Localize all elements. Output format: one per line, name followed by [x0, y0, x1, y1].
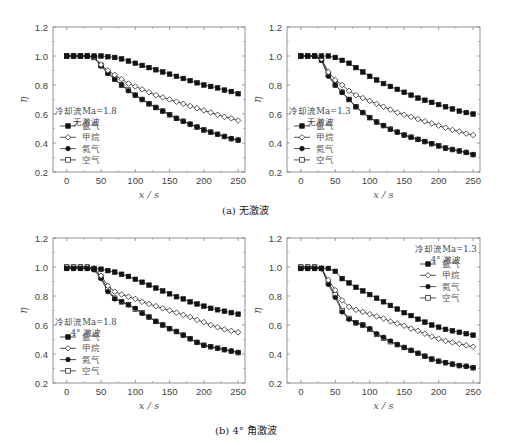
circle-filled-marker [195, 125, 200, 130]
x-tick-label: 100 [362, 175, 378, 186]
square-filled-marker [464, 331, 469, 336]
circle-filled-marker [119, 83, 124, 88]
diamond-open-marker [422, 331, 428, 337]
caption-b: (b) 4° 角激波 [215, 422, 277, 437]
square-filled-marker [92, 266, 97, 271]
circle-filled-marker [402, 133, 407, 138]
circle-filled-marker [133, 306, 138, 311]
circle-filled-marker [112, 297, 117, 302]
square-filled-marker [71, 266, 76, 271]
x-tick-label: 50 [96, 386, 107, 397]
legend-title: 冷却流Ma=1.3 [289, 106, 350, 116]
square-filled-marker [443, 327, 448, 332]
diamond-open-marker [222, 114, 228, 120]
circle-filled-marker [208, 344, 213, 349]
circle-filled-marker [106, 289, 111, 294]
square-filled-marker [409, 93, 414, 98]
y-tick-label: 1.2 [35, 22, 48, 33]
chart-b-left: 0.20.40.60.81.01.2050100150200250x / sη冷… [17, 233, 246, 412]
y-tick-label: 0.4 [269, 138, 282, 149]
diamond-open-marker [194, 317, 200, 323]
diamond-open-marker [208, 322, 214, 328]
circle-filled-marker [333, 83, 338, 88]
diamond-open-marker [360, 309, 366, 315]
legend-label: 空气 [82, 366, 100, 376]
circle-filled-marker [126, 302, 131, 307]
diamond-open-marker [401, 323, 407, 329]
square-filled-marker [99, 54, 104, 59]
square-filled-marker [147, 65, 152, 70]
square-filled-marker [450, 107, 455, 112]
legend-title: 冷却流Ma=1.8 [55, 317, 116, 327]
diamond-open-marker [126, 294, 132, 300]
diamond-open-marker [353, 92, 359, 98]
circle-filled-marker [416, 351, 421, 356]
legend: 冷却流Ma=1.8无激波氩气甲烷氦气空气 [55, 106, 116, 165]
circle-filled-marker [409, 135, 414, 140]
circle-filled-marker [208, 130, 213, 135]
x-tick-label: 50 [330, 175, 341, 186]
x-tick-label: 250 [465, 175, 481, 186]
diamond-open-marker [119, 76, 125, 82]
circle-filled-marker [426, 284, 431, 289]
square-filled-marker [416, 317, 421, 322]
legend-label: 空气 [82, 155, 100, 165]
square-filled-marker [195, 81, 200, 86]
square-filled-marker [457, 330, 462, 335]
x-axis-label: x / s [139, 400, 160, 411]
circle-filled-marker [402, 345, 407, 350]
y-tick-label: 0.2 [35, 167, 48, 178]
square-filled-marker [215, 307, 220, 312]
square-filled-marker [133, 277, 138, 282]
circle-filled-marker [443, 146, 448, 151]
legend: 冷却流Ma=1.34° 激波氩气甲烷氦气空气 [415, 244, 476, 303]
legend-label: 氩气 [82, 332, 100, 342]
legend-title: 冷却流Ma=1.8 [55, 106, 116, 116]
figure: 0.20.40.60.81.01.2050100150200250x / sη冷… [0, 0, 507, 445]
x-tick-label: 0 [64, 386, 69, 397]
series-markers [298, 265, 475, 370]
diamond-open-marker [65, 346, 71, 352]
square-filled-marker [305, 54, 310, 59]
diamond-open-marker [457, 129, 463, 135]
square-filled-marker [402, 90, 407, 95]
square-filled-marker [426, 262, 431, 267]
circle-filled-marker [381, 335, 386, 340]
diamond-open-marker [228, 116, 234, 122]
circle-filled-marker [119, 300, 124, 305]
square-filled-marker [374, 296, 379, 301]
circle-filled-marker [347, 317, 352, 322]
circle-filled-marker [160, 109, 165, 114]
legend-label: 空气 [442, 293, 460, 303]
diamond-open-marker [353, 307, 359, 313]
square-filled-marker [381, 81, 386, 86]
circle-filled-marker [202, 343, 207, 348]
circle-filled-marker [388, 339, 393, 344]
diamond-open-marker [119, 292, 125, 298]
circle-filled-marker [222, 134, 227, 139]
square-filled-marker [326, 266, 331, 271]
square-filled-marker [319, 266, 324, 271]
square-filled-marker [395, 87, 400, 92]
square-filled-marker [300, 124, 305, 129]
circle-filled-marker [340, 310, 345, 315]
square-filled-marker [436, 102, 441, 107]
diamond-open-marker [215, 112, 221, 118]
square-filled-marker [347, 281, 352, 286]
diamond-open-marker [463, 343, 469, 349]
circle-filled-marker [126, 89, 131, 94]
square-filled-marker [140, 63, 145, 68]
square-filled-marker [64, 54, 69, 59]
circle-filled-marker [347, 97, 352, 102]
square-filled-marker [181, 76, 186, 81]
square-filled-marker [85, 266, 90, 271]
square-filled-marker [78, 54, 83, 59]
circle-filled-marker [361, 323, 366, 328]
square-filled-marker [167, 292, 172, 297]
square-filled-marker [195, 302, 200, 307]
circle-filled-marker [388, 127, 393, 132]
diamond-open-marker [201, 319, 207, 325]
diamond-open-marker [174, 99, 180, 105]
x-tick-label: 100 [362, 386, 378, 397]
square-filled-marker [333, 269, 338, 274]
